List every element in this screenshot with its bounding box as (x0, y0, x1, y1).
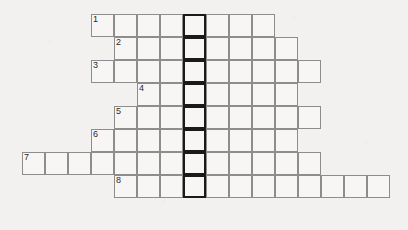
crossword-cell[interactable] (183, 37, 206, 60)
crossword-cell[interactable] (252, 83, 275, 106)
crossword-cell[interactable]: 4 (137, 83, 160, 106)
crossword-cell[interactable] (137, 129, 160, 152)
crossword-cell[interactable] (183, 175, 206, 198)
crossword-cell[interactable]: 2 (114, 37, 137, 60)
crossword-cell[interactable] (137, 152, 160, 175)
crossword-cell[interactable] (160, 152, 183, 175)
crossword-cell[interactable] (137, 175, 160, 198)
crossword-cell[interactable] (206, 60, 229, 83)
crossword-cell[interactable] (160, 175, 183, 198)
cell-number: 4 (139, 83, 144, 93)
cell-number: 2 (116, 37, 121, 47)
crossword-cell[interactable] (252, 14, 275, 37)
crossword-cell[interactable] (252, 129, 275, 152)
crossword-cell[interactable] (206, 175, 229, 198)
crossword-cell[interactable] (114, 60, 137, 83)
crossword-cell[interactable] (275, 83, 298, 106)
crossword-cell[interactable] (252, 37, 275, 60)
crossword-cell[interactable]: 7 (22, 152, 45, 175)
crossword-cell[interactable] (367, 175, 390, 198)
crossword-cell[interactable] (114, 152, 137, 175)
cell-number: 6 (93, 129, 98, 139)
crossword-cell[interactable] (45, 152, 68, 175)
crossword-cell[interactable] (229, 14, 252, 37)
cell-number: 7 (24, 152, 29, 162)
crossword-cell[interactable] (252, 175, 275, 198)
crossword-cell[interactable] (298, 106, 321, 129)
crossword-cell[interactable] (160, 60, 183, 83)
crossword-puzzle: 12345678 (0, 0, 408, 230)
crossword-cell[interactable] (229, 106, 252, 129)
crossword-cell[interactable]: 3 (91, 60, 114, 83)
crossword-cell[interactable] (183, 14, 206, 37)
crossword-cell[interactable] (160, 106, 183, 129)
crossword-cell[interactable] (160, 37, 183, 60)
crossword-cell[interactable] (160, 83, 183, 106)
crossword-cell[interactable] (229, 129, 252, 152)
crossword-cell[interactable] (206, 14, 229, 37)
crossword-cell[interactable] (160, 14, 183, 37)
crossword-cell[interactable] (68, 152, 91, 175)
crossword-cell[interactable] (252, 106, 275, 129)
crossword-grid[interactable]: 12345678 (0, 0, 408, 230)
crossword-cell[interactable] (229, 37, 252, 60)
cell-number: 8 (116, 175, 121, 185)
crossword-cell[interactable] (298, 175, 321, 198)
crossword-cell[interactable] (137, 106, 160, 129)
crossword-cell[interactable] (114, 129, 137, 152)
cell-number: 5 (116, 106, 121, 116)
crossword-cell[interactable] (229, 83, 252, 106)
crossword-cell[interactable] (183, 83, 206, 106)
crossword-cell[interactable] (229, 152, 252, 175)
crossword-cell[interactable] (275, 129, 298, 152)
crossword-cell[interactable] (275, 60, 298, 83)
crossword-cell[interactable] (275, 106, 298, 129)
crossword-cell[interactable] (91, 152, 114, 175)
crossword-cell[interactable] (160, 129, 183, 152)
crossword-cell[interactable] (206, 37, 229, 60)
crossword-cell[interactable] (298, 60, 321, 83)
crossword-cell[interactable] (183, 106, 206, 129)
crossword-cell[interactable] (275, 152, 298, 175)
crossword-cell[interactable] (206, 129, 229, 152)
crossword-cell[interactable] (275, 37, 298, 60)
crossword-cell[interactable] (183, 129, 206, 152)
crossword-cell[interactable] (137, 60, 160, 83)
crossword-cell[interactable] (252, 152, 275, 175)
crossword-cell[interactable] (321, 175, 344, 198)
crossword-cell[interactable] (183, 60, 206, 83)
cell-number: 1 (93, 14, 98, 24)
crossword-cell[interactable] (183, 152, 206, 175)
crossword-cell[interactable] (252, 60, 275, 83)
crossword-cell[interactable] (229, 60, 252, 83)
crossword-cell[interactable] (298, 152, 321, 175)
crossword-cell[interactable]: 5 (114, 106, 137, 129)
crossword-cell[interactable] (206, 83, 229, 106)
crossword-cell[interactable]: 8 (114, 175, 137, 198)
crossword-cell[interactable] (137, 14, 160, 37)
crossword-cell[interactable] (206, 106, 229, 129)
crossword-cell[interactable] (206, 152, 229, 175)
crossword-cell[interactable] (114, 14, 137, 37)
crossword-cell[interactable] (275, 175, 298, 198)
cell-number: 3 (93, 60, 98, 70)
crossword-cell[interactable]: 6 (91, 129, 114, 152)
crossword-cell[interactable]: 1 (91, 14, 114, 37)
crossword-cell[interactable] (137, 37, 160, 60)
crossword-cell[interactable] (229, 175, 252, 198)
crossword-cell[interactable] (344, 175, 367, 198)
